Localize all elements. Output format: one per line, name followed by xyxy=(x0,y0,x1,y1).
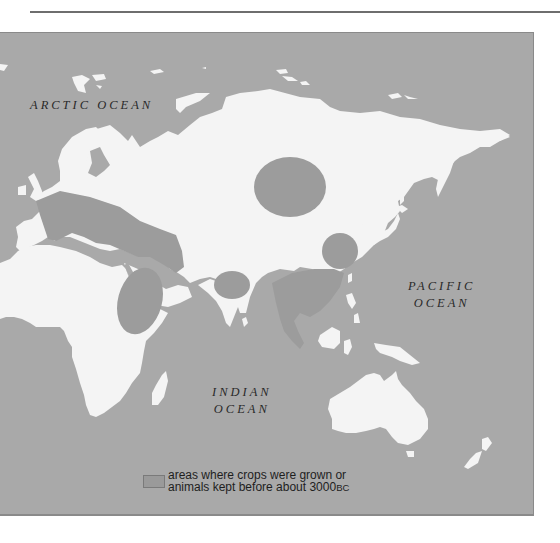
legend-line-2: animals kept before about 3000BC xyxy=(168,481,349,494)
map-legend: areas where crops were grown or animals … xyxy=(143,469,349,494)
indian-ocean-label: INDIAN OCEAN xyxy=(212,384,272,418)
top-rule xyxy=(30,11,560,13)
region-central-asia xyxy=(254,157,326,217)
map-frame: ARCTIC OCEAN PACIFIC OCEAN INDIAN OCEAN xyxy=(0,32,534,516)
region-yellow-river xyxy=(322,233,358,269)
legend-text: areas where crops were grown or animals … xyxy=(168,469,349,494)
legend-line-2-suffix: BC xyxy=(336,482,349,493)
farming-region-swatch xyxy=(143,475,165,488)
pacific-ocean-label: PACIFIC OCEAN xyxy=(408,278,475,312)
legend-line-2-main: animals kept before about 3000 xyxy=(168,480,336,494)
arctic-ocean-label: ARCTIC OCEAN xyxy=(30,97,153,114)
region-indus-valley xyxy=(214,271,250,299)
